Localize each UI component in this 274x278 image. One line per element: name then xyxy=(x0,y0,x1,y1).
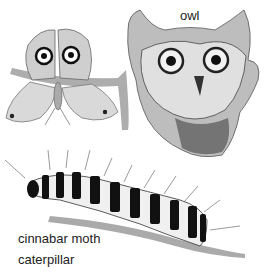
moth-illustration xyxy=(6,29,129,130)
owl-illustration xyxy=(128,10,259,157)
caterpillar-label-line2: caterpillar xyxy=(18,252,74,267)
owl-label: owl xyxy=(180,8,200,23)
caterpillar-label-line1: cinnabar moth xyxy=(18,231,100,246)
illustration-canvas: owl cinnabar moth caterpillar xyxy=(0,0,274,278)
